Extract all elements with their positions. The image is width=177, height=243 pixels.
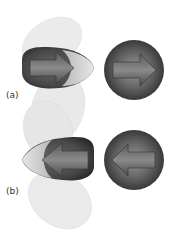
panel-a-lobe: [22, 47, 94, 88]
orbital-figure: [0, 0, 177, 243]
panel-b-sphere: [104, 130, 164, 190]
background-lobes: [13, 7, 102, 241]
panel-a-sphere: [104, 40, 164, 100]
panel-a-label: (a): [6, 90, 19, 100]
panel-b-label: (b): [6, 186, 19, 196]
